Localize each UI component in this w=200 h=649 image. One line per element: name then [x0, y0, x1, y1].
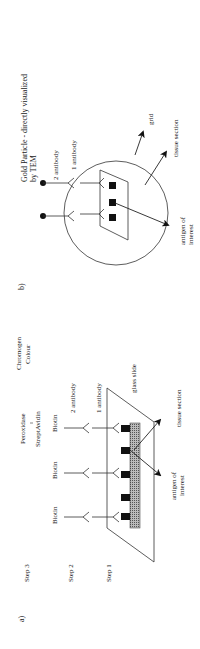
panel-b: b) Gold Particle - directly visualized b…	[17, 74, 195, 290]
antibody-chain	[64, 423, 119, 433]
peroxidase-label: Peroxidase	[19, 413, 27, 444]
antibody-y-icon	[68, 211, 74, 221]
antigen-square	[109, 214, 116, 221]
secondary-antibody-label: 2 antibody	[52, 150, 60, 180]
primary-antibody-label: 1 antibody	[70, 140, 78, 170]
antigen-label-a: antigen of	[170, 471, 178, 500]
tissue-arrow	[145, 152, 166, 185]
antigen-label-b-2: interest	[187, 224, 195, 245]
grid-label: grid	[147, 113, 155, 125]
antigen-square	[109, 182, 116, 189]
primary-antibody-label-a: 1 antibody	[95, 383, 103, 413]
antigen-label-b: antigen of	[179, 216, 187, 245]
immunolabeling-diagram: b) Gold Particle - directly visualized b…	[0, 0, 200, 649]
antigen-square	[121, 494, 130, 501]
antigen-square	[121, 513, 130, 520]
biotin-label: Biotin	[51, 414, 59, 432]
panel-a-label: a)	[17, 615, 26, 622]
tissue-section-strip	[130, 423, 140, 528]
biotin-label: Biotin	[51, 506, 59, 524]
antigen-square	[121, 425, 130, 432]
biotin-label: Biotin	[51, 461, 59, 479]
antigen-square	[109, 199, 116, 206]
gold-particle-title: Gold Particle - directly visualized	[20, 74, 29, 182]
chromogen-label: Chromogen	[15, 336, 23, 370]
antigen-label-a-2: interest	[178, 475, 186, 496]
antigen-square	[121, 447, 130, 454]
gold-particle-title-2: by TEM	[29, 155, 38, 182]
grid-arrow	[135, 132, 143, 155]
colour-label: Colour	[24, 344, 32, 364]
tissue-section-label-a: tissue section	[175, 389, 183, 427]
tissue-section-label-b: tissue section	[172, 119, 180, 157]
step-1-label: Step 1	[105, 564, 113, 582]
antibody-chain	[64, 512, 119, 522]
streptavidin-label: StreptAvidin	[34, 411, 42, 447]
secondary-antibody-label-a: 2 antibody	[69, 383, 77, 413]
panel-b-label: b)	[17, 283, 26, 290]
antigen-square	[121, 471, 130, 478]
antibody-chain	[64, 468, 119, 478]
step-3-label: Step 3	[23, 564, 31, 582]
step-2-label: Step 2	[67, 564, 75, 582]
glass-slide-label: glass slide	[130, 364, 138, 393]
antigen-arrow	[115, 203, 168, 225]
panel-a: a) Step 3 Step 2 Step 1 Peroxidase Strep…	[15, 336, 186, 622]
